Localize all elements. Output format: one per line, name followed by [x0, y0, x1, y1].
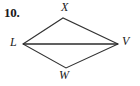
vertex-label-v: V [122, 35, 129, 48]
vertex-label-x: X [61, 1, 68, 14]
vertex-label-w: W [59, 69, 69, 82]
kite-outline [23, 18, 118, 68]
vertex-label-l: L [10, 36, 17, 49]
geometry-figure-panel: 10. X V W L [0, 0, 140, 86]
kite-diagram [0, 0, 140, 86]
